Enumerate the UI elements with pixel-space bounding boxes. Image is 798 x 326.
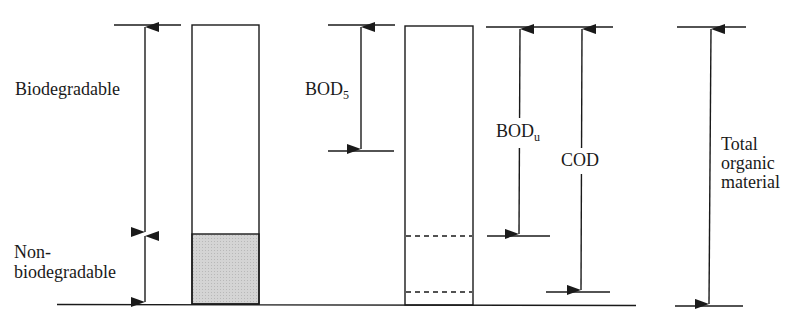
total-arrow xyxy=(709,29,711,304)
bod5-label: BOD5 xyxy=(305,80,349,99)
baseline xyxy=(57,305,636,306)
total-label-line2: organic xyxy=(721,154,775,173)
bod5-label-subscript: 5 xyxy=(343,88,349,102)
bodu-label: BODu xyxy=(496,122,540,141)
bodu-label-subscript: u xyxy=(534,130,540,144)
bodu-label-main: BOD xyxy=(496,121,534,141)
total-label-line1: Total xyxy=(721,135,758,154)
nonbiodegradable-label-line1: Non- xyxy=(14,243,51,262)
biodegradable-label: Biodegradable xyxy=(15,80,120,99)
diagram-canvas xyxy=(0,0,798,326)
nonbiodegradable-segment xyxy=(192,234,259,304)
organic-material-diagram: Biodegradable Non- biodegradable BOD5 BO… xyxy=(0,0,798,326)
bod5-label-main: BOD xyxy=(305,79,343,99)
total-label-line3: material xyxy=(721,173,780,192)
nonbiodegradable-label-line2: biodegradable xyxy=(14,263,116,282)
right-bar xyxy=(405,26,473,305)
cod-label: COD xyxy=(561,151,599,170)
